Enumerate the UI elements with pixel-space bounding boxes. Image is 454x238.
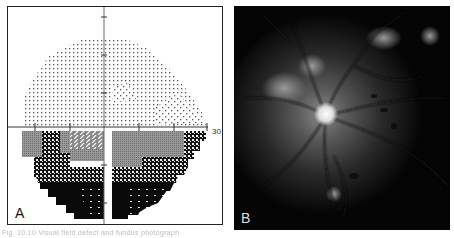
axis-30-label: 30 <box>212 127 221 136</box>
panel-b-label: B <box>241 210 250 226</box>
lower-field-left <box>22 131 104 219</box>
fundus-photo-panel: B <box>234 6 450 230</box>
optic-disc <box>314 102 338 126</box>
fundus-image <box>234 6 450 230</box>
panel-a-label: A <box>15 205 24 221</box>
upper-field-dots <box>8 7 223 127</box>
visual-field-panel: 30 A <box>7 6 223 225</box>
visual-field-plot <box>8 7 223 225</box>
figure-caption: Fig. 10.10 Visual field defect and fundu… <box>2 229 179 236</box>
lower-field-right <box>112 131 206 219</box>
